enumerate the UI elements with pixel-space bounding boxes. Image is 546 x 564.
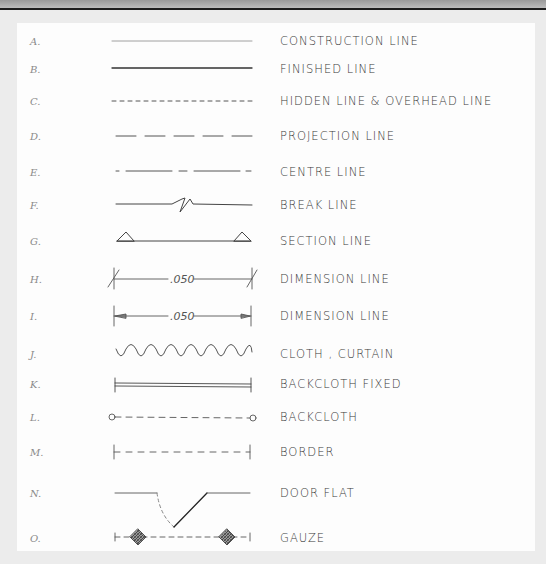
backcloth-fixed-symbol [115, 378, 251, 392]
backcloth-symbol [109, 414, 256, 421]
section-line-symbol [117, 232, 251, 241]
break-line-symbol [116, 198, 252, 212]
dimension-value-i: .050 [170, 310, 195, 323]
gauze-symbol [115, 529, 250, 545]
line-symbols: .050 .050 [0, 0, 546, 564]
door-flat-symbol [115, 493, 250, 527]
border-symbol [114, 445, 250, 459]
dimension-value-h: .050 [170, 273, 195, 286]
cloth-curtain-symbol [116, 345, 252, 357]
